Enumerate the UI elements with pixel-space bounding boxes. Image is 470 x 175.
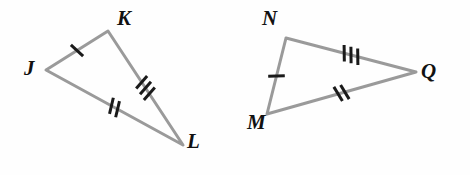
- triangle-nmq: [267, 38, 416, 114]
- triangle-jkl: [46, 31, 183, 145]
- triangle-layer: [46, 31, 416, 145]
- vertex-label-k: K: [117, 8, 131, 29]
- vertex-label-m: M: [247, 112, 266, 133]
- geometry-canvas: [0, 0, 470, 175]
- geometry-figure: JKLNMQ: [0, 0, 470, 175]
- vertex-label-j: J: [24, 58, 35, 79]
- tick-mark: [110, 98, 114, 114]
- vertex-label-n: N: [262, 8, 277, 29]
- vertex-label-l: L: [187, 131, 200, 152]
- vertex-label-q: Q: [421, 61, 436, 82]
- tick-mark: [116, 101, 120, 117]
